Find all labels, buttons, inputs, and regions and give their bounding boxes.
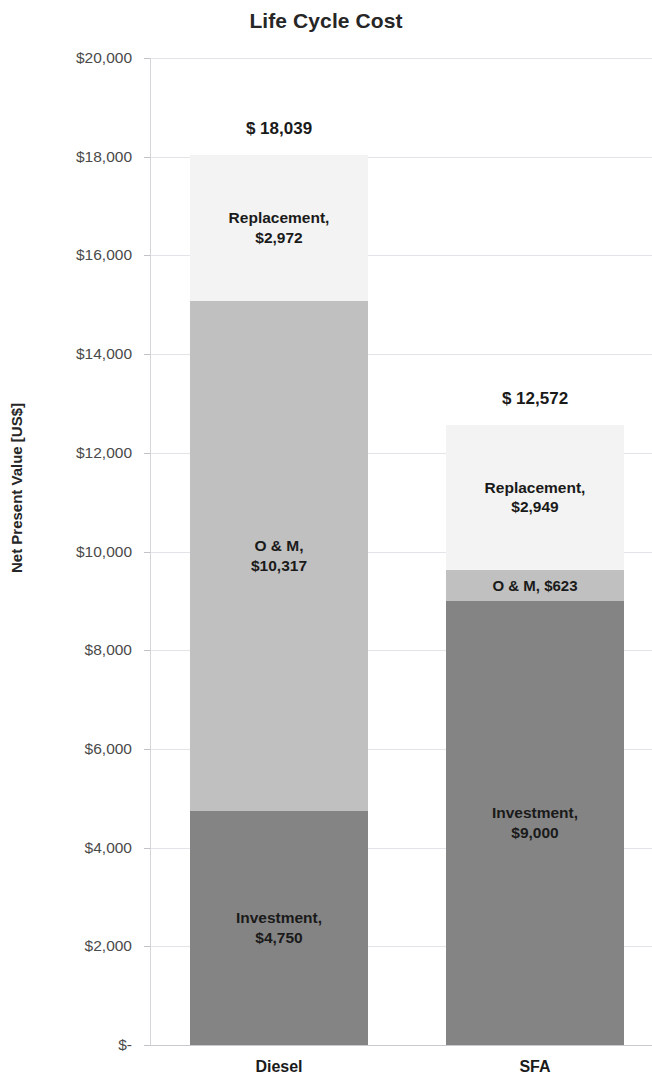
chart-title: Life Cycle Cost <box>0 0 652 42</box>
y-tick-label: $2,000 <box>14 937 132 955</box>
y-tick-label: $4,000 <box>14 839 132 857</box>
bar-segment-label: O & M, $623 <box>492 576 577 595</box>
bar-segment-label: Replacement, <box>485 478 586 498</box>
bar-sfa[interactable]: Investment,$9,000O & M, $623Replacement,… <box>446 58 624 1045</box>
y-tick-label: $- <box>14 1036 132 1054</box>
bar-segment-om[interactable]: O & M,$10,317 <box>190 301 368 810</box>
y-tick-label: $14,000 <box>14 345 132 363</box>
bar-segment-label: $9,000 <box>511 823 558 843</box>
bar-segment-label: O & M, <box>254 536 303 556</box>
bar-segment-label: $2,949 <box>511 497 558 517</box>
y-tick-label: $12,000 <box>14 444 132 462</box>
y-tick-label: $20,000 <box>14 49 132 67</box>
bar-segment-label: Replacement, <box>229 208 330 228</box>
bar-total-label: $ 12,572 <box>446 389 624 409</box>
y-tick-label: $10,000 <box>14 543 132 561</box>
y-tick-label: $16,000 <box>14 246 132 264</box>
y-tick-label: $18,000 <box>14 148 132 166</box>
plot-area: Investment,$4,750O & M,$10,317Replacemen… <box>150 58 652 1045</box>
x-axis-label-diesel: Diesel <box>189 1058 369 1076</box>
x-axis-line <box>150 1045 652 1046</box>
bar-total-label: $ 18,039 <box>190 119 368 139</box>
life-cycle-cost-chart: Life Cycle Cost Net Present Value [US$] … <box>0 0 652 1085</box>
bar-segment-label: Investment, <box>236 908 322 928</box>
bar-segment-label: Investment, <box>492 803 578 823</box>
y-tick-label: $8,000 <box>14 641 132 659</box>
x-axis-label-sfa: SFA <box>445 1058 625 1076</box>
bar-segment-replacement[interactable]: Replacement,$2,949 <box>446 425 624 571</box>
bar-segment-label: $10,317 <box>251 556 307 576</box>
bar-segment-om[interactable]: O & M, $623 <box>446 570 624 601</box>
bar-segment-investment[interactable]: Investment,$9,000 <box>446 601 624 1045</box>
y-tick-label: $6,000 <box>14 740 132 758</box>
bar-segment-replacement[interactable]: Replacement,$2,972 <box>190 155 368 302</box>
bar-segment-label: $4,750 <box>255 928 302 948</box>
bar-segment-investment[interactable]: Investment,$4,750 <box>190 811 368 1045</box>
bar-diesel[interactable]: Investment,$4,750O & M,$10,317Replacemen… <box>190 58 368 1045</box>
bar-segment-label: $2,972 <box>255 228 302 248</box>
